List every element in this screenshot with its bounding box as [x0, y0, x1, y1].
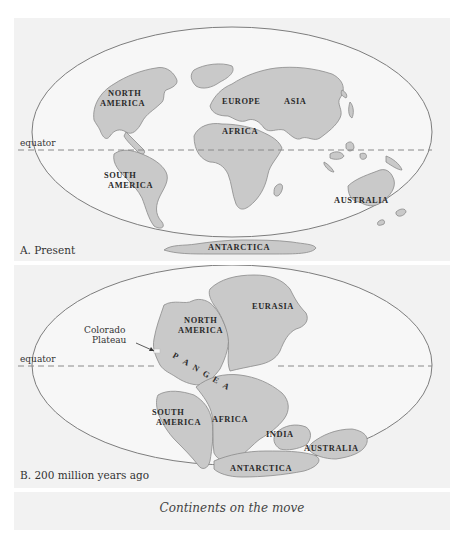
label-india: INDIA — [266, 430, 294, 439]
label-africa: AFRICA — [212, 415, 248, 424]
equator-label: equator — [20, 138, 56, 148]
label-south-america-1: SOUTH — [152, 408, 184, 417]
label-australia: AUSTRALIA — [334, 196, 389, 205]
label-south-america-1: SOUTH — [104, 171, 136, 180]
panel-200-million-years-ago: Colorado Plateau equator P A N G E A NOR… — [14, 265, 450, 488]
label-australia: AUSTRALIA — [304, 444, 359, 453]
present-world-map: equator NORTH AMERICA SOUTH AMERICA EURO… — [14, 18, 450, 261]
caption-strip: Continents on the move — [14, 492, 450, 530]
label-europe: EUROPE — [222, 97, 261, 106]
label-antarctica: ANTARCTICA — [208, 243, 270, 252]
annotation-plateau: Plateau — [92, 335, 127, 345]
equator-label: equator — [20, 354, 56, 364]
pangea-map: Colorado Plateau equator P A N G E A NOR… — [14, 265, 450, 488]
label-asia: ASIA — [284, 97, 306, 106]
label-south-america-2: AMERICA — [156, 418, 201, 427]
panel-present: equator NORTH AMERICA SOUTH AMERICA EURO… — [14, 18, 450, 261]
label-north-america-2: AMERICA — [178, 326, 223, 335]
colorado-plateau-marker — [154, 349, 160, 353]
label-north-america-1: NORTH — [108, 89, 141, 98]
label-eurasia: EURASIA — [252, 302, 294, 311]
panel-a-label: A. Present — [20, 244, 75, 256]
label-north-america-1: NORTH — [184, 316, 217, 325]
label-africa: AFRICA — [222, 127, 258, 136]
label-north-america-2: AMERICA — [100, 99, 145, 108]
label-antarctica: ANTARCTICA — [230, 464, 292, 473]
panel-b-label: B. 200 million years ago — [20, 469, 149, 481]
new-zealand — [377, 209, 406, 225]
annotation-colorado: Colorado — [84, 325, 125, 335]
figure-caption: Continents on the move — [14, 501, 450, 515]
label-south-america-2: AMERICA — [108, 181, 153, 190]
